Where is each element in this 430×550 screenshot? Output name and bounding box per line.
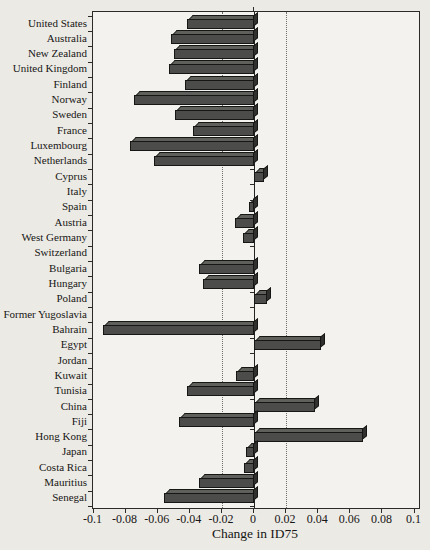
bar-end-face	[253, 226, 258, 241]
category-label-mauritius: Mauritius	[0, 475, 87, 489]
plot-area	[92, 11, 420, 509]
bar-end-face	[253, 456, 258, 471]
category-label-united-kingdom: United Kingdom	[0, 61, 87, 75]
category-label-austria: Austria	[0, 215, 87, 229]
category-label-fiji: Fiji	[0, 414, 87, 428]
bar-top-face	[201, 474, 258, 478]
category-label-italy: Italy	[0, 184, 87, 198]
left-border-row-tick	[88, 200, 93, 201]
bar-kuwait	[236, 371, 254, 381]
bar-top-face	[177, 106, 258, 110]
bar-top-face	[105, 321, 258, 325]
left-border-row-tick	[88, 31, 93, 32]
bar-end-face	[253, 11, 258, 26]
category-label-kuwait: Kuwait	[0, 368, 87, 382]
bar-norway	[134, 95, 254, 105]
left-border-row-tick	[88, 353, 93, 354]
category-label-sweden: Sweden	[0, 107, 87, 121]
bar-top-face	[195, 122, 258, 126]
x-axis-tick	[349, 508, 350, 513]
zero-axis-row-tick	[250, 506, 254, 507]
category-label-hong-kong: Hong Kong	[0, 429, 87, 443]
left-border-row-tick	[88, 16, 93, 17]
category-label-bulgaria: Bulgaria	[0, 261, 87, 275]
zero-axis-row-tick	[250, 353, 254, 354]
bar-end-face	[253, 27, 258, 42]
x-axis-tick	[253, 508, 254, 513]
bar-top-face	[156, 152, 258, 156]
x-axis-tick	[381, 508, 382, 513]
left-border-row-tick	[88, 491, 93, 492]
bar-top-face	[132, 137, 258, 141]
left-border-row-tick	[88, 322, 93, 323]
left-border-row-tick	[88, 460, 93, 461]
left-border-row-tick	[88, 429, 93, 430]
left-border-row-tick	[88, 246, 93, 247]
bar-top-face	[189, 382, 258, 386]
left-border-row-tick	[88, 338, 93, 339]
bar-end-face	[253, 486, 258, 501]
x-axis-title: Change in ID75	[92, 526, 418, 542]
left-border-row-tick	[88, 230, 93, 231]
left-border-row-tick	[88, 123, 93, 124]
category-label-spain: Spain	[0, 199, 87, 213]
bar-top-face	[256, 428, 367, 432]
zero-axis-row-tick	[250, 292, 254, 293]
left-border-row-tick	[88, 292, 93, 293]
category-label-former-yugoslavia: Former Yugoslavia	[0, 307, 87, 321]
bar-top-face	[256, 398, 319, 402]
left-border-row-tick	[88, 184, 93, 185]
zero-axis-row-tick	[250, 338, 254, 339]
bar-china	[254, 402, 315, 412]
bar-end-face	[253, 103, 258, 118]
x-axis-tick	[93, 508, 94, 513]
bar-end-face	[253, 471, 258, 486]
bar-end-face	[253, 211, 258, 226]
bar-end-face	[253, 134, 258, 149]
category-label-jordan: Jordan	[0, 353, 87, 367]
bar-end-face	[253, 73, 258, 88]
left-border-row-tick	[88, 138, 93, 139]
bar-top-face	[187, 76, 258, 80]
category-label-new-zealand: New Zealand	[0, 46, 87, 60]
category-label-luxembourg: Luxembourg	[0, 138, 87, 152]
category-label-france: France	[0, 123, 87, 137]
category-label-china: China	[0, 399, 87, 413]
category-label-cyprus: Cyprus	[0, 169, 87, 183]
bar-senegal	[164, 493, 254, 503]
bar-mauritius	[199, 478, 254, 488]
bar-tunisia	[187, 386, 254, 396]
bar-bahrain	[103, 325, 254, 335]
bar-end-face	[362, 425, 367, 440]
bar-france	[193, 126, 254, 136]
bar-end-face	[320, 333, 325, 348]
bar-end-face	[253, 88, 258, 103]
bar-egypt	[254, 340, 321, 350]
x-axis-tick	[125, 508, 126, 513]
left-border-row-tick	[88, 307, 93, 308]
bar-end-face	[253, 149, 258, 164]
category-label-norway: Norway	[0, 92, 87, 106]
bar-end-face	[253, 364, 258, 379]
category-label-australia: Australia	[0, 31, 87, 45]
bar-fiji	[179, 417, 254, 427]
bar-end-face	[253, 42, 258, 57]
bar-sweden	[175, 110, 254, 120]
left-border-row-tick	[88, 92, 93, 93]
bar-end-face	[253, 440, 258, 455]
bar-end-face	[263, 165, 268, 180]
left-border-row-tick	[88, 384, 93, 385]
bar-top-face	[205, 275, 258, 279]
x-tick-label-0.1: 0.1	[392, 512, 430, 527]
left-border-row-tick	[88, 46, 93, 47]
bar-end-face	[253, 379, 258, 394]
bar-bulgaria	[199, 264, 254, 274]
bar-japan	[246, 447, 254, 457]
left-border-row-tick	[88, 475, 93, 476]
bar-spain	[249, 202, 254, 212]
bar-finland	[185, 80, 254, 90]
zero-axis-row-tick	[250, 246, 254, 247]
bar-united-kingdom	[169, 64, 254, 74]
top-border-zero-tick	[253, 7, 254, 11]
bar-end-face	[253, 410, 258, 425]
